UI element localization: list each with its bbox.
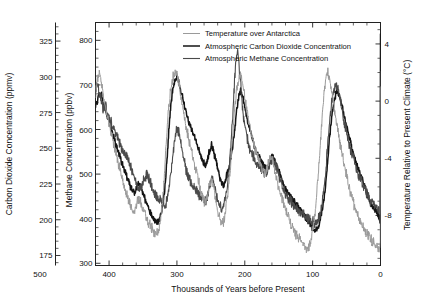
- y-tick-label: 250: [39, 144, 53, 153]
- x-tick-label-500: 500: [33, 270, 47, 279]
- x-tick-label: 100: [306, 270, 320, 279]
- y-tick-label: 4: [385, 40, 390, 49]
- y-tick-label: -8: [385, 211, 393, 220]
- y-axis-title-co2: Carbon Dioxide Concentration (ppmv): [4, 72, 14, 215]
- legend-label: Atmospheric Carbon Dioxide Concentration: [205, 42, 351, 51]
- y-tick-label: 175: [39, 251, 53, 260]
- x-tick-label: 400: [102, 270, 116, 279]
- legend-label: Temperature over Antarctica: [205, 29, 301, 38]
- y-tick-label: -4: [385, 154, 393, 163]
- x-tick-label: 0: [378, 270, 383, 279]
- y-axis-title-temperature: Temperature Relative to Present Climate …: [402, 60, 412, 231]
- y-tick-label: 500: [79, 170, 93, 179]
- paleoclimate-chart: 5004003002001000 175200225250275300325 3…: [0, 0, 421, 307]
- y-tick-label: 700: [79, 81, 93, 90]
- y-tick-label: 300: [79, 259, 93, 268]
- y-tick-label: 600: [79, 126, 93, 135]
- y-axis-title-ch4: Methane Concentration (ppbv): [64, 92, 74, 207]
- y-tick-label: 400: [79, 215, 93, 224]
- x-axis-title: Thousands of Years before Present: [171, 284, 305, 294]
- y-tick-label: 275: [39, 109, 53, 118]
- y-tick-label: 325: [39, 37, 53, 46]
- x-tick-label: 200: [238, 270, 252, 279]
- y-tick-label: 300: [39, 73, 53, 82]
- legend-label: Atmospheric Methane Concentration: [205, 54, 328, 63]
- y-tick-label: 225: [39, 180, 53, 189]
- y-tick-label: 800: [79, 36, 93, 45]
- x-tick-label: 300: [170, 270, 184, 279]
- y-tick-label: 200: [39, 216, 53, 225]
- y-tick-label: 0: [385, 97, 390, 106]
